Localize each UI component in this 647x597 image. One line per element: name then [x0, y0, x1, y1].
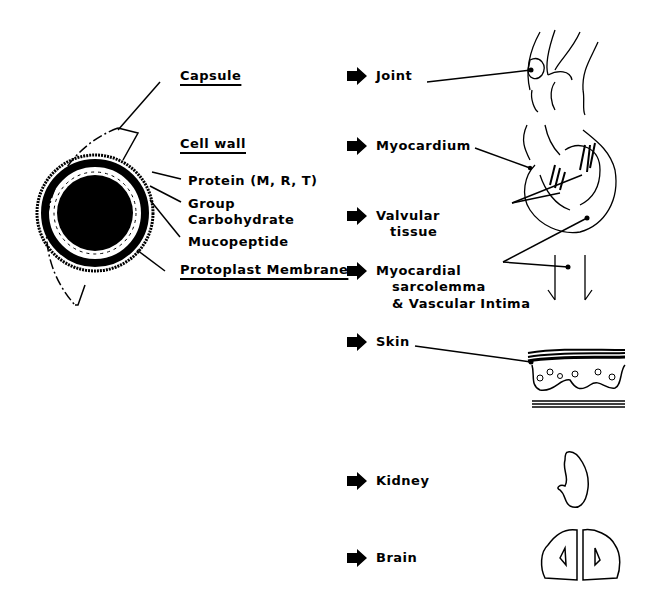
arrow-icon [347, 333, 367, 351]
label-cell-wall: Cell wall [180, 136, 246, 151]
arrow-icon [347, 207, 367, 225]
label-sarcolemma: sarcolemma [392, 279, 486, 294]
label-protein: Protein (M, R, T) [188, 173, 318, 188]
label-myocardium: Myocardium [376, 138, 471, 153]
diagram-drawing [0, 0, 647, 597]
label-vascular-intima: & Vascular Intima [392, 296, 530, 311]
brain-illustration [542, 530, 620, 580]
label-carbohydrate: Carbohydrate [188, 212, 294, 227]
label-mucopeptide: Mucopeptide [188, 234, 289, 249]
label-group: Group [188, 196, 235, 211]
label-valvular: Valvular [376, 208, 440, 223]
arrow-icon [347, 137, 367, 155]
skin-illustration [528, 350, 625, 407]
arrow-icon [347, 262, 367, 280]
label-protoplast-membrane: Protoplast Membrane [180, 262, 348, 277]
heart-illustration [524, 125, 616, 233]
label-tissue: tissue [390, 224, 437, 239]
label-brain: Brain [376, 550, 417, 565]
label-joint: Joint [376, 68, 412, 83]
label-myocardial: Myocardial [376, 263, 461, 278]
joint-illustration [528, 30, 598, 115]
label-capsule: Capsule [180, 68, 241, 83]
label-skin: Skin [376, 334, 410, 349]
arrow-icon [347, 472, 367, 490]
label-kidney: Kidney [376, 473, 429, 488]
kidney-illustration [558, 452, 588, 507]
protoplast [57, 175, 133, 251]
heart-valve-marks [550, 143, 595, 190]
vessel-illustration [548, 255, 592, 300]
arrow-icon [347, 67, 367, 85]
arrow-icon [347, 549, 367, 567]
